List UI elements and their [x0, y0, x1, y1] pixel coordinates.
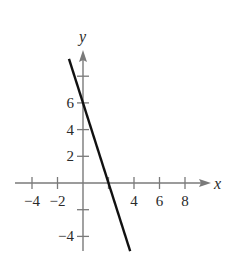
y-tick-label: 4: [67, 122, 75, 138]
y-axis-label: y: [77, 28, 87, 46]
y-axis: y: [77, 28, 87, 251]
x-tick-label: −2: [50, 193, 66, 209]
x-axis: x: [15, 175, 221, 192]
x-tick-label: 4: [130, 193, 138, 209]
line-y-equals-neg3x-plus6: [69, 59, 130, 251]
x-ticks: −4−2468: [24, 177, 189, 209]
x-tick-label: 8: [181, 193, 189, 209]
x-axis-label: x: [213, 175, 221, 192]
y-tick-label: 2: [67, 148, 75, 164]
y-ticks: −4246: [58, 76, 89, 244]
coordinate-plane: x y −4−2468 −4246: [0, 0, 237, 262]
x-tick-label: −4: [24, 193, 40, 209]
y-tick-label: −4: [58, 228, 74, 244]
x-tick-label: 6: [156, 193, 164, 209]
y-tick-label: 6: [67, 95, 75, 111]
